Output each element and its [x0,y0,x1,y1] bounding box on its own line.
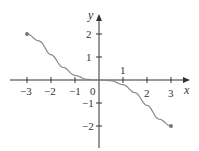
x-tick-label: 0 [90,85,96,97]
y-tick-label: 2 [86,28,92,40]
x-tick-label: 2 [144,87,150,99]
x-tick-label: 3 [168,87,174,99]
y-tick-label: 1 [86,51,92,63]
endpoint-left [25,32,29,36]
y-axis-label: y [87,8,94,22]
y-tick-label: −1 [82,97,94,109]
y-tick-label: −2 [82,120,94,132]
x-axis-label: x [183,83,190,97]
x-tick-label: −2 [44,85,56,97]
x-tick-label-one: 1 [120,64,126,76]
endpoint-right [169,124,173,128]
function-graph: −3 −2 −1 0 2 3 1 x 2 1 −1 −2 y [0,0,199,151]
y-axis-arrow-icon [96,14,102,21]
x-tick-label: −1 [69,85,81,97]
x-tick-label: −3 [20,85,32,97]
